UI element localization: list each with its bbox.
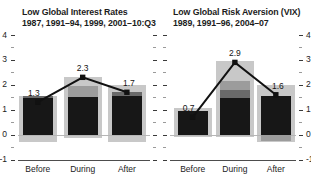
bar-segment-mid [220, 81, 250, 90]
y-tick [299, 110, 303, 111]
y-tick [299, 147, 302, 148]
y-tick [299, 135, 303, 136]
y-tick-label: 2 [0, 80, 7, 89]
y-tick-label: 3 [306, 55, 311, 64]
y-tick [11, 160, 15, 161]
y-tick [163, 110, 167, 111]
median-value-label: 1.7 [114, 79, 144, 88]
y-tick [11, 135, 15, 136]
y-tick [153, 110, 157, 111]
bar-segment-black [68, 97, 98, 134]
median-value-label: 2.9 [220, 49, 250, 58]
bar-segment-black [178, 111, 208, 135]
y-tick [163, 85, 167, 86]
chart-canvas: 43210-1BeforeDuringAfter1.32.31.743210-1… [0, 0, 311, 180]
figure-low-rates-low-vix: Low Global Interest Rates 1987, 1991–94,… [0, 0, 311, 180]
x-axis-line [170, 160, 296, 161]
bar-segment-black [220, 98, 250, 134]
y-tick [153, 160, 157, 161]
y-tick [163, 72, 166, 73]
y-tick [299, 122, 302, 123]
y-tick [153, 72, 156, 73]
bar-segment-black [23, 98, 53, 134]
y-tick [299, 97, 302, 98]
y-tick [153, 35, 157, 36]
median-value-label: 1.6 [263, 82, 293, 91]
median-value-label: 1.3 [19, 89, 49, 98]
y-tick [153, 60, 157, 61]
bar-segment-mid [68, 86, 98, 97]
y-tick [163, 122, 166, 123]
y-tick [299, 72, 302, 73]
y-tick [11, 72, 14, 73]
y-tick [163, 35, 167, 36]
y-tick [299, 160, 303, 161]
y-tick [153, 147, 156, 148]
y-tick [299, 85, 303, 86]
y-tick [163, 147, 166, 148]
y-tick-label: 1 [306, 105, 311, 114]
y-tick [163, 97, 166, 98]
y-tick [299, 60, 303, 61]
y-tick-label: 2 [306, 80, 311, 89]
x-category-label: Before [16, 165, 60, 174]
x-category-label: After [254, 165, 298, 174]
y-tick [299, 35, 303, 36]
y-tick [11, 85, 15, 86]
x-category-label: Before [171, 165, 215, 174]
y-tick-label: -1 [306, 155, 311, 164]
x-category-label: During [61, 165, 105, 174]
y-tick-label: 3 [0, 55, 7, 64]
y-tick-label: 0 [0, 130, 7, 139]
zero-line [18, 135, 150, 136]
y-tick [163, 47, 166, 48]
y-tick-label: 1 [0, 105, 7, 114]
y-tick-label: 4 [0, 31, 7, 40]
bar-segment-dark [220, 90, 250, 99]
y-tick-label: 0 [306, 130, 311, 139]
median-value-label: 0.7 [174, 104, 204, 113]
y-tick [153, 85, 157, 86]
y-tick [11, 47, 14, 48]
y-tick [163, 160, 167, 161]
y-tick [153, 47, 156, 48]
bar-segment-dark [112, 92, 142, 96]
y-tick [299, 47, 302, 48]
y-tick [11, 110, 15, 111]
bar-segment-black [261, 96, 291, 135]
y-tick [11, 97, 14, 98]
y-tick [153, 97, 156, 98]
y-tick [163, 60, 167, 61]
bar-segment-black [112, 96, 142, 135]
median-value-label: 2.3 [68, 64, 98, 73]
bar-segment-mid [261, 135, 291, 141]
y-tick-label: -1 [0, 155, 7, 164]
y-tick [11, 147, 14, 148]
y-tick [11, 122, 14, 123]
x-axis-line [18, 160, 150, 161]
x-category-label: After [105, 165, 149, 174]
y-tick [163, 135, 167, 136]
y-tick-label: 4 [306, 31, 311, 40]
y-tick [153, 135, 157, 136]
y-tick [11, 35, 15, 36]
x-category-label: During [213, 165, 257, 174]
y-tick [11, 60, 15, 61]
y-tick [153, 122, 156, 123]
